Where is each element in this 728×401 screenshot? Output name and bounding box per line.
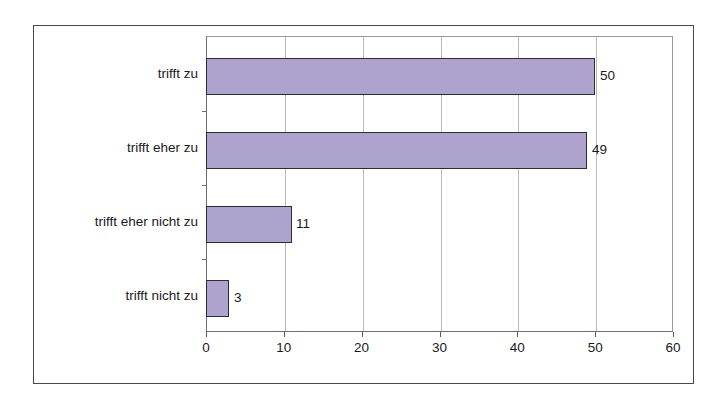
- bar-value-trifft-eher-zu: 49: [592, 143, 607, 157]
- x-axis-tick-label: 10: [276, 341, 291, 355]
- x-axis-tick-label: 0: [202, 341, 210, 355]
- x-axis-tick: [284, 332, 285, 337]
- y-axis-category-labels: trifft zu trifft eher zu trifft eher nic…: [40, 36, 198, 332]
- category-label-trifft-nicht-zu: trifft nicht zu: [125, 289, 198, 303]
- x-axis-tick-label: 40: [510, 341, 525, 355]
- bar-trifft-eher-zu[interactable]: [206, 132, 587, 169]
- category-label-trifft-zu: trifft zu: [158, 67, 198, 81]
- bar-trifft-eher-nicht-zu[interactable]: [206, 206, 292, 243]
- x-axis-tick: [440, 332, 441, 337]
- bar-value-trifft-eher-nicht-zu: 11: [296, 217, 310, 231]
- x-axis-tick: [595, 332, 596, 337]
- x-axis-tick: [206, 332, 207, 337]
- x-axis-tick-label: 50: [588, 341, 603, 355]
- x-axis: 0 10 20 30 40 50 60: [206, 332, 673, 372]
- x-axis-tick: [362, 332, 363, 337]
- chart-figure: trifft zu trifft eher zu trifft eher nic…: [0, 0, 728, 401]
- bar-trifft-zu[interactable]: [206, 58, 595, 95]
- bar-value-trifft-zu: 50: [600, 69, 615, 83]
- x-axis-tick: [517, 332, 518, 337]
- x-axis-tick-label: 20: [354, 341, 369, 355]
- bar-value-trifft-nicht-zu: 3: [234, 291, 242, 305]
- x-axis-tick: [673, 332, 674, 337]
- x-axis-tick-label: 30: [432, 341, 447, 355]
- category-label-trifft-eher-nicht-zu: trifft eher nicht zu: [95, 215, 198, 229]
- bar-series: 50 49 11 3: [206, 36, 673, 332]
- x-axis-tick-label: 60: [665, 341, 680, 355]
- bar-trifft-nicht-zu[interactable]: [206, 280, 229, 317]
- category-label-trifft-eher-zu: trifft eher zu: [127, 141, 198, 155]
